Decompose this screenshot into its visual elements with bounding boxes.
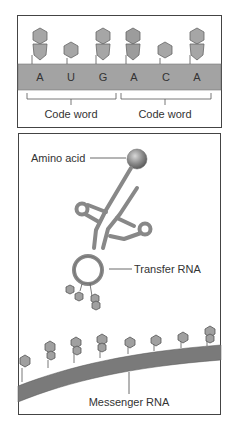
base-letter: C [162, 71, 170, 83]
base-letter: A [193, 71, 201, 83]
base-letter: A [36, 71, 44, 83]
translation-panel: Amino acid Transfer RNA [18, 134, 221, 415]
amino-acid-label: Amino acid [31, 152, 85, 164]
base-letter: U [67, 71, 75, 83]
codon-label: Code word [44, 108, 97, 120]
rna-strand-band [18, 64, 221, 90]
codon-panel: A U G A C A Code word Code word [18, 16, 222, 128]
messenger-rna-label: Messenger RNA [89, 396, 170, 408]
amino-acid-icon [127, 149, 147, 169]
transfer-rna-label: Transfer RNA [134, 263, 201, 275]
base-letter: A [130, 71, 138, 83]
diagram: A U G A C A Code word Code word Amino ac… [0, 0, 235, 430]
base-letter: G [99, 71, 108, 83]
codon-label: Code word [138, 108, 191, 120]
